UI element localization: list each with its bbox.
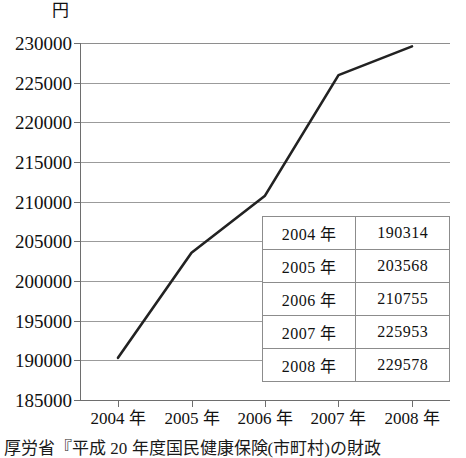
source-caption: 厚労省『平成 20 年度国民健康保険(市町村)の財政 bbox=[4, 439, 466, 458]
ytick-label-185000: 185000 bbox=[0, 391, 72, 410]
table-row: 2007 年 225953 bbox=[263, 316, 450, 349]
gridline-210000 bbox=[80, 202, 450, 203]
table-cell-year: 2007 年 bbox=[263, 316, 356, 349]
y-axis-unit-label: 円 bbox=[52, 1, 69, 21]
gridline-215000 bbox=[80, 162, 450, 163]
xtick-2006 bbox=[265, 400, 266, 407]
ytick-label-200000: 200000 bbox=[0, 272, 72, 291]
x-axis-line bbox=[80, 400, 450, 401]
xtick-label-2008: 2008 年 bbox=[367, 409, 457, 429]
table-cell-year: 2008 年 bbox=[263, 349, 356, 382]
table-row: 2004 年 190314 bbox=[263, 217, 450, 250]
xtick-2004 bbox=[118, 400, 119, 407]
ytick-label-225000: 225000 bbox=[0, 74, 72, 93]
xtick-2008 bbox=[412, 400, 413, 407]
table-cell-value: 210755 bbox=[356, 283, 450, 316]
xtick-2005 bbox=[192, 400, 193, 407]
ytick-label-215000: 215000 bbox=[0, 153, 72, 172]
data-value-table: 2004 年 190314 2005 年 203568 2006 年 21075… bbox=[262, 216, 450, 382]
data-value-table-body: 2004 年 190314 2005 年 203568 2006 年 21075… bbox=[263, 217, 450, 382]
table-cell-year: 2005 年 bbox=[263, 250, 356, 283]
table-row: 2008 年 229578 bbox=[263, 349, 450, 382]
ytick-label-195000: 195000 bbox=[0, 312, 72, 331]
ytick-label-205000: 205000 bbox=[0, 232, 72, 251]
ytick-label-230000: 230000 bbox=[0, 34, 72, 53]
ytick-label-220000: 220000 bbox=[0, 113, 72, 132]
y-axis-line bbox=[80, 43, 81, 401]
table-cell-value: 190314 bbox=[356, 217, 450, 250]
table-cell-value: 229578 bbox=[356, 349, 450, 382]
gridline-230000 bbox=[80, 43, 450, 44]
ytick-label-190000: 190000 bbox=[0, 351, 72, 370]
table-row: 2006 年 210755 bbox=[263, 283, 450, 316]
gridline-220000 bbox=[80, 122, 450, 123]
xtick-2007 bbox=[338, 400, 339, 407]
chart-figure: 円 230000 225000 220000 215000 210000 bbox=[0, 0, 466, 458]
table-cell-value: 203568 bbox=[356, 250, 450, 283]
table-cell-value: 225953 bbox=[356, 316, 450, 349]
table-row: 2005 年 203568 bbox=[263, 250, 450, 283]
gridline-225000 bbox=[80, 83, 450, 84]
table-cell-year: 2006 年 bbox=[263, 283, 356, 316]
table-cell-year: 2004 年 bbox=[263, 217, 356, 250]
ytick-label-210000: 210000 bbox=[0, 193, 72, 212]
